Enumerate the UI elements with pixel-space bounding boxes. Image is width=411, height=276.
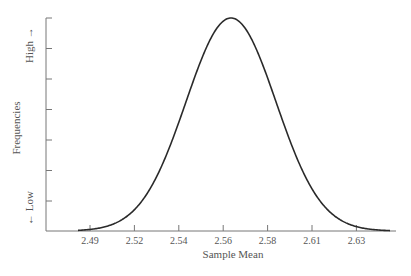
x-tick-label: 2.63 [348, 235, 366, 246]
y-high-label: High → [23, 27, 35, 63]
x-axis-title: Sample Mean [203, 248, 264, 260]
x-tick-label: 2.49 [81, 235, 99, 246]
x-tick-label: 2.58 [259, 235, 277, 246]
y-axis-ticks [46, 18, 52, 201]
x-tick-label: 2.61 [303, 235, 321, 246]
sampling-distribution-chart: 2.492.522.542.562.582.612.63 High → Freq… [0, 0, 411, 276]
y-axis [46, 18, 52, 231]
y-low-label: ← Low [23, 191, 35, 225]
y-axis-title: Frequencies [10, 101, 22, 154]
x-axis-ticks: 2.492.522.542.562.582.612.63 [81, 225, 365, 246]
x-tick-label: 2.52 [126, 235, 144, 246]
normal-curve [78, 18, 390, 231]
x-tick-label: 2.54 [170, 235, 188, 246]
x-tick-label: 2.56 [214, 235, 232, 246]
